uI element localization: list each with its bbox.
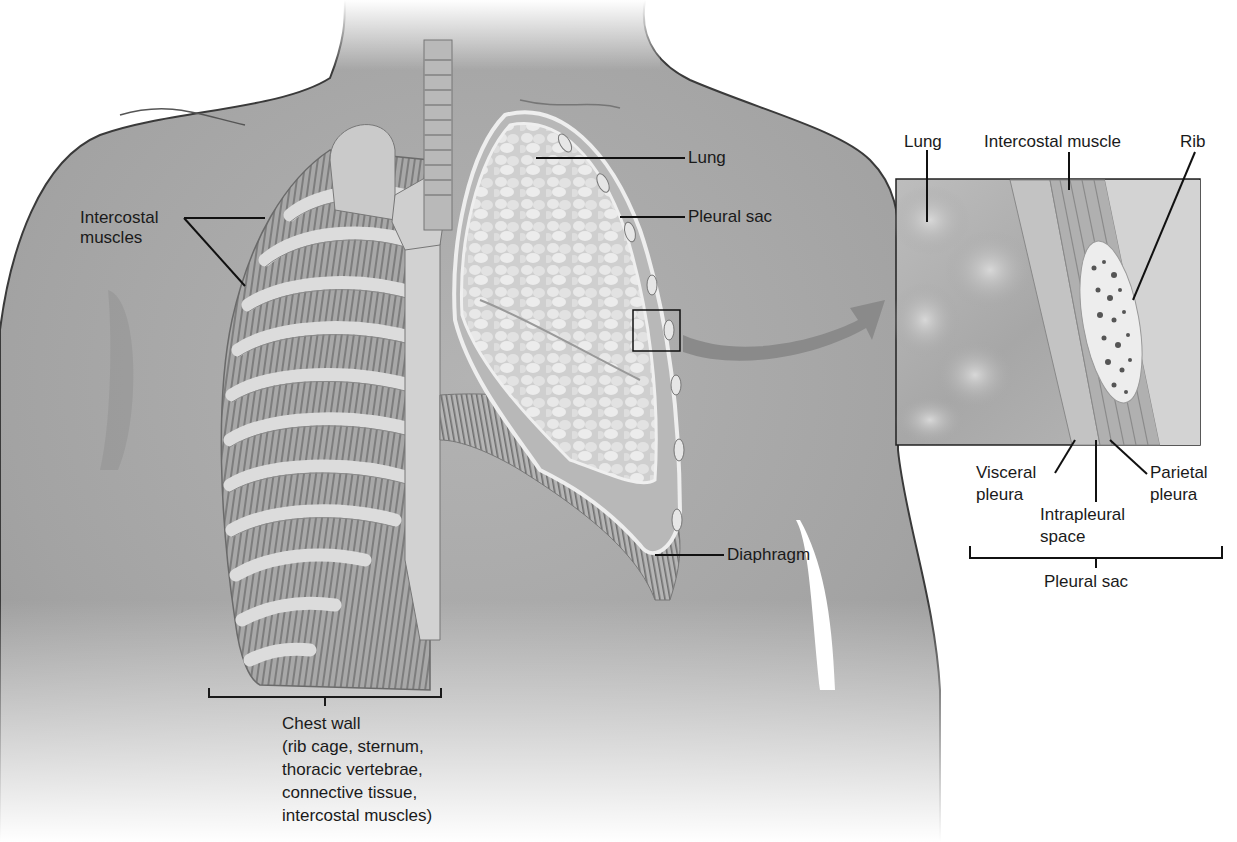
label-intercostal-muscles: Intercostal muscles [80,208,158,248]
inset-label-lung: Lung [904,132,942,152]
trachea [424,40,452,230]
inset-label-pleural-sac: Pleural sac [1044,572,1128,592]
label-diaphragm: Diaphragm [727,545,810,565]
inset-label-visceral-pleura: Visceral pleura [976,462,1036,506]
inset-label-rib: Rib [1180,132,1206,152]
inset-label-parietal-pleura: Parietal pleura [1150,462,1208,506]
inset-detail [890,179,1200,445]
thorax-diagram: Intercostal muscles Lung Pleural sac Dia… [0,0,1237,842]
inset-label-intrapleural-space: Intrapleural space [1040,504,1125,548]
label-chest-wall: Chest wall (rib cage, sternum, thoracic … [282,712,432,827]
label-lung: Lung [688,148,726,168]
inset-label-intercostal-muscle: Intercostal muscle [984,132,1121,152]
label-pleural-sac: Pleural sac [688,207,772,227]
anatomy-illustration [0,0,1237,842]
